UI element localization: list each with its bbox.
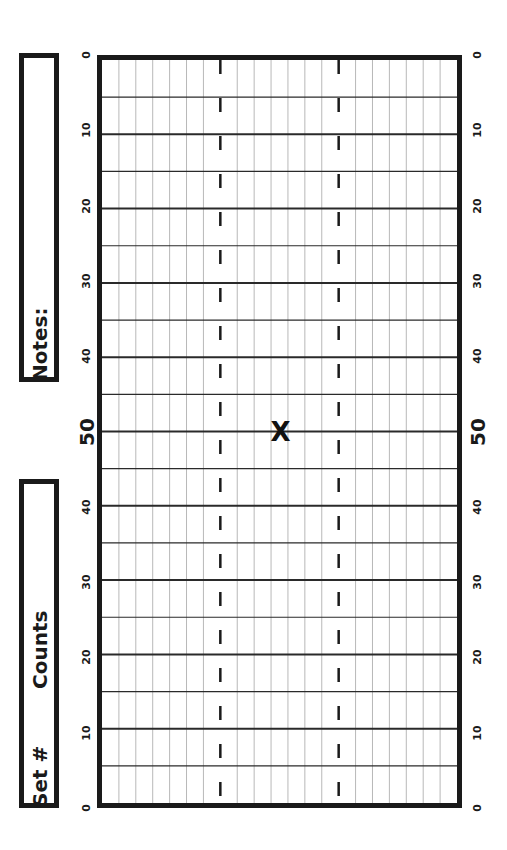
yard-label: 40 (471, 344, 485, 368)
yard-label: 50 (466, 412, 490, 452)
set-number-label: Set # (28, 746, 52, 807)
notes-box[interactable]: Notes: (19, 53, 59, 382)
yard-label: 50 (75, 412, 99, 452)
yard-label: 10 (80, 721, 94, 745)
yard-label: 0 (471, 796, 485, 820)
yard-label: 30 (80, 570, 94, 594)
yard-label: 30 (471, 570, 485, 594)
yard-label: 20 (471, 645, 485, 669)
yard-label: 10 (80, 118, 94, 142)
yard-label: 20 (471, 194, 485, 218)
counts-label: Counts (28, 611, 52, 689)
yard-label: 40 (80, 344, 94, 368)
yard-label: 0 (471, 43, 485, 67)
notes-label: Notes: (28, 307, 52, 381)
yard-label: 10 (471, 721, 485, 745)
set-counts-box[interactable]: Set # Counts (19, 479, 59, 808)
yard-label: 0 (80, 796, 94, 820)
yard-label: 30 (80, 269, 94, 293)
x-marker: X (271, 419, 291, 445)
yard-label: 0 (80, 43, 94, 67)
yard-label: 40 (80, 495, 94, 519)
yard-label: 40 (471, 495, 485, 519)
football-field-grid[interactable]: X (97, 55, 462, 808)
yard-label: 20 (80, 194, 94, 218)
yard-label: 10 (471, 118, 485, 142)
yard-label: 30 (471, 269, 485, 293)
yard-label: 20 (80, 645, 94, 669)
